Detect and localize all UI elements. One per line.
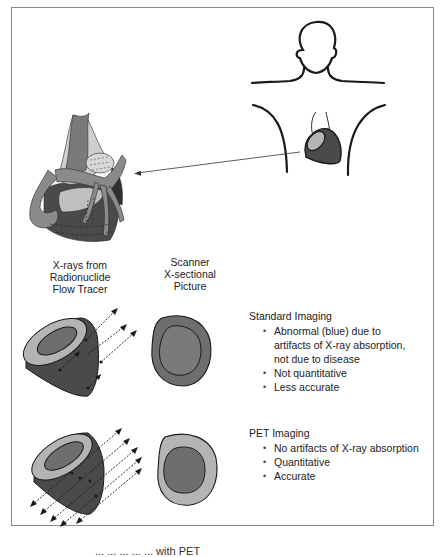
bullet-line: not due to disease [274,352,434,366]
xray-column-header: X-rays from Radionuclide Flow Tracer [30,259,130,295]
anatomical-heart-icon [30,113,126,241]
bullet-line: Less accurate [274,380,434,394]
standard-imaging-title: Standard Imaging [249,309,434,323]
figure-caption-truncated: ... ... ... ... ... with PET [95,545,200,557]
bullet-line: Quantitative [274,455,434,469]
bullet-line: Accurate [274,469,434,483]
standard-cross-section-icon [152,316,211,386]
pointer-arrow [134,152,300,176]
header-line: Picture [145,280,235,292]
pet-imaging-list: No artifacts of X-ray absorption Quantit… [249,441,434,483]
standard-imaging-panel: Standard Imaging Abnormal (blue) due to … [249,309,434,394]
bullet-item: Not quantitative [263,366,434,380]
header-line: Radionuclide [30,271,130,283]
header-line: X-sectional [145,268,235,280]
header-line: X-rays from [30,259,130,271]
header-line: Flow Tracer [30,283,130,295]
standard-imaging-list: Abnormal (blue) due to artifacts of X-ra… [249,324,434,394]
bullet-item: Accurate [263,469,434,483]
pet-imaging-panel: PET Imaging No artifacts of X-ray absorp… [249,426,434,483]
bullet-item: Abnormal (blue) due to artifacts of X-ra… [263,324,434,366]
scanner-column-header: Scanner X-sectional Picture [145,256,235,292]
bullet-line: Not quantitative [274,366,434,380]
pet-cross-section-icon [158,434,217,505]
header-line: Scanner [145,256,235,268]
standard-heart-cone-icon [16,309,99,396]
bullet-line: artifacts of X-ray absorption, [274,338,434,352]
pet-imaging-title: PET Imaging [249,426,434,440]
bullet-item: Less accurate [263,380,434,394]
bullet-line: No artifacts of X-ray absorption [274,441,434,455]
chest-heart-icon [304,112,342,164]
pet-heart-cone-icon [24,425,104,515]
bullet-item: No artifacts of X-ray absorption [263,441,434,455]
bullet-item: Quantitative [263,455,434,469]
bullet-line: Abnormal (blue) due to [274,324,434,338]
